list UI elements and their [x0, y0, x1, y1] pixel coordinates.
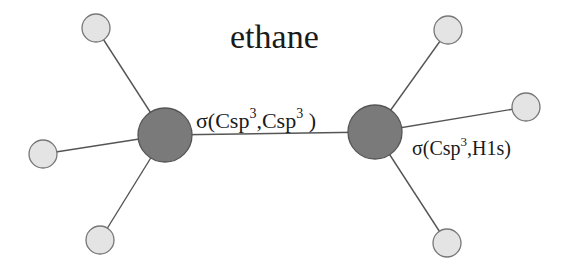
hydrogen-atom [86, 226, 114, 254]
ethane-diagram: ethane σ(Csp3,Csp3 ) σ(Csp3,H1s) [0, 0, 568, 269]
hydrogen-atom [29, 140, 57, 168]
cc-bond-label: σ(Csp3,Csp3 ) [196, 106, 316, 133]
carbon-atom [138, 108, 192, 162]
hydrogen-atom [433, 229, 461, 257]
hydrogen-atom [512, 93, 540, 121]
molecule-svg: ethane σ(Csp3,Csp3 ) σ(Csp3,H1s) [0, 0, 568, 269]
bonds [43, 28, 526, 243]
hydrogen-atom [434, 16, 462, 44]
ch-bond-label: σ(Csp3,H1s) [412, 134, 511, 160]
hydrogen-atom [82, 14, 110, 42]
diagram-title: ethane [230, 18, 319, 55]
carbon-atom [348, 105, 402, 159]
